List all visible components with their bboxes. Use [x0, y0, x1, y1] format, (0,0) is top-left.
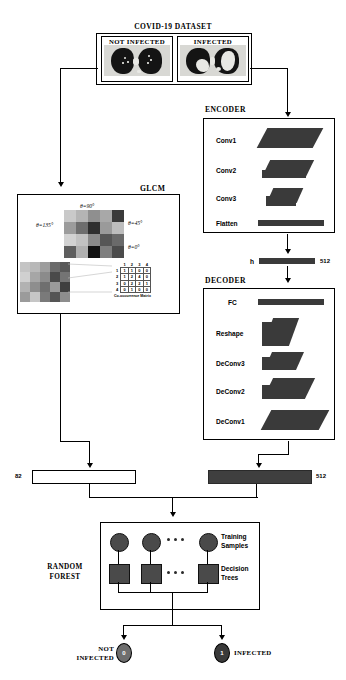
- connector-sample-to-tree: [150, 550, 151, 564]
- not-infected-label: NOT INFECTED: [102, 37, 172, 45]
- decoder-slab-reshape-side: [262, 322, 288, 346]
- decoder-slab-deconv3-side: [262, 357, 292, 370]
- encoder-layer-label-flatten: Flatten: [216, 220, 238, 227]
- connector-forest-output: [172, 592, 173, 626]
- matrix-cell: 0: [143, 286, 150, 292]
- glcm-angle-label-135: θ=135°: [36, 222, 53, 228]
- connector-output-split: [123, 625, 222, 626]
- output-infected-label: INFECTED: [234, 649, 272, 658]
- arrow-into-glcm: [58, 182, 64, 187]
- connector-glcm-to-bar: [89, 441, 90, 465]
- latent-size-label: 512: [320, 258, 330, 264]
- ct-scan-infected: [180, 45, 246, 76]
- connector-dataset-to-glcm-vertical: [60, 68, 61, 184]
- training-sample-node: [142, 533, 161, 552]
- flowchart-diagram: COVID-19 DATASET NOT INFECTED INFECTED: [0, 0, 346, 680]
- arrow-to-not-infected: [121, 635, 127, 640]
- connector-dataset-to-encoder-top: [250, 68, 288, 69]
- training-samples-label-line1: Training: [221, 532, 248, 541]
- output-not-infected-label: NOT INFECTED: [62, 645, 114, 662]
- table-row: 4 0 1 0 0: [114, 286, 150, 292]
- connector-glcm-down: [60, 314, 61, 442]
- decoder-layer-label-fc: FC: [228, 299, 237, 306]
- latent-bar: [259, 258, 315, 264]
- matrix-cell: 1: [128, 286, 135, 292]
- connector-aggregation-bus: [118, 592, 208, 593]
- not-infected-panel: NOT INFECTED: [101, 36, 173, 82]
- co-occurrence-table: 1 2 3 4 1 1 1 0 0 2 1 2 4 0 3 0: [114, 262, 151, 293]
- glcm-angle-label-0: θ=0°: [128, 244, 140, 250]
- decision-tree-node: [141, 564, 162, 584]
- co-occurrence-matrix-caption: Co-occurrence Matrix: [114, 293, 151, 298]
- encoder-title: ENCODER: [205, 105, 246, 114]
- infected-panel: INFECTED: [177, 36, 249, 82]
- training-sample-node: [110, 533, 129, 552]
- decoder-title: DECODER: [205, 276, 246, 285]
- glcm-texture-patch: [64, 210, 124, 258]
- encoder-slab-flatten: [258, 220, 324, 226]
- latent-feature-size-label: 512: [316, 473, 326, 479]
- glcm-angle-label-90: θ=90°: [80, 203, 94, 209]
- latent-feature-bar: [208, 470, 312, 484]
- connector-sample-to-tree: [118, 550, 119, 564]
- arrow-to-infected: [219, 635, 225, 640]
- output-node-infected-value: 1: [220, 650, 223, 656]
- glcm-angle-label-45: θ=45°: [128, 220, 142, 226]
- matrix-row-header: 4: [114, 286, 121, 292]
- decoder-layer-label-deconv3: DeConv3: [216, 360, 245, 367]
- arrow-into-glcm-feature-bar: [87, 463, 93, 468]
- glcm-feature-bar: [32, 470, 136, 484]
- encoder-slab-conv2-side: [262, 170, 306, 178]
- diagram-title: COVID-19 DATASET: [0, 22, 346, 31]
- decision-tree-node: [109, 564, 130, 584]
- output-node-not-infected-value: 0: [122, 650, 125, 656]
- decoder-slab-deconv2-side: [262, 385, 302, 399]
- encoder-layer-label-conv2: Conv2: [216, 167, 236, 174]
- infected-label: INFECTED: [178, 37, 248, 45]
- connector-decoder-down: [288, 441, 289, 455]
- connector-decoder-elbow: [258, 454, 289, 455]
- encoder-layer-label-conv1: Conv1: [216, 137, 236, 144]
- decoder-slab-deconv1: [261, 410, 330, 430]
- connector-dataset-to-glcm-top: [60, 68, 98, 69]
- output-not-infected-line2: INFECTED: [62, 654, 114, 663]
- connector-dataset-to-encoder-vertical: [287, 68, 288, 114]
- arrow-into-random-forest: [170, 512, 176, 517]
- arrow-into-latent-feature-bar: [256, 463, 262, 468]
- matrix-cell: 0: [121, 286, 128, 292]
- glcm-guide-lines: [60, 258, 120, 304]
- matrix-cell: 0: [136, 286, 143, 292]
- decision-trees-label: Decision Trees: [221, 564, 248, 582]
- output-node-infected: 1: [214, 643, 230, 663]
- co-occurrence-matrix: 1 2 3 4 1 1 1 0 0 2 1 2 4 0 3 0: [114, 262, 151, 298]
- decoder-layer-label-deconv1: DeConv1: [216, 418, 245, 425]
- connector-latent-bar-down: [256, 484, 257, 498]
- latent-symbol: h: [250, 258, 254, 265]
- random-forest-title: RANDOM FOREST: [34, 562, 96, 582]
- arrow-into-latent: [285, 249, 291, 254]
- training-sample-node: [199, 533, 218, 552]
- decoder-layer-label-reshape: Reshape: [216, 330, 244, 337]
- glcm-feature-size-label: 82: [15, 473, 22, 479]
- random-forest-title-line1: RANDOM: [34, 562, 96, 572]
- random-forest-title-line2: FOREST: [34, 572, 96, 582]
- training-samples-label: Training Samples: [221, 532, 248, 550]
- encoder-slab-conv1: [257, 128, 324, 148]
- encoder-layer-label-conv3: Conv3: [216, 195, 236, 202]
- output-not-infected-line1: NOT: [62, 645, 114, 654]
- arrow-into-encoder: [285, 112, 291, 117]
- decision-trees-label-line2: Trees: [221, 573, 248, 582]
- connector-merge-horizontal: [89, 497, 258, 498]
- decision-trees-label-line1: Decision: [221, 564, 248, 573]
- connector-glcm-bar-down: [89, 484, 90, 498]
- output-node-not-infected: 0: [116, 643, 132, 663]
- decision-trees-ellipsis: [167, 571, 184, 574]
- decoder-layer-label-deconv2: DeConv2: [216, 388, 245, 395]
- glcm-title: GLCM: [140, 184, 165, 193]
- connector-sample-to-tree: [207, 550, 208, 564]
- decoder-slab-fc: [258, 299, 324, 305]
- encoder-slab-conv3-side: [266, 196, 296, 206]
- ct-scan-not-infected: [104, 45, 170, 76]
- training-samples-label-line2: Samples: [221, 541, 248, 550]
- training-samples-ellipsis: [167, 538, 184, 541]
